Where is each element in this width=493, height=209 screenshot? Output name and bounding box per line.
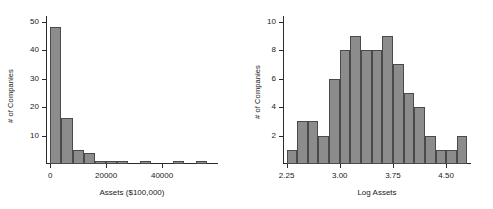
- y-tick: [42, 136, 46, 137]
- x-tick: [106, 164, 107, 168]
- histogram-bar: [173, 161, 184, 164]
- y-axis-label: # of Companies: [253, 42, 262, 142]
- histogram-bar: [329, 79, 340, 164]
- x-tick: [162, 164, 163, 168]
- histogram-bar: [117, 161, 128, 164]
- histogram-bar: [350, 36, 361, 164]
- x-tick: [393, 164, 394, 168]
- y-tick-label: 8: [250, 46, 276, 54]
- histogram-bar: [446, 150, 457, 164]
- x-tick-label: 20000: [82, 172, 130, 180]
- x-tick-label: 3.00: [316, 172, 364, 180]
- assets-histogram-panel: # of Companies 102030405002000040000 Ass…: [0, 0, 246, 209]
- y-tick: [279, 107, 283, 108]
- y-tick-label: 10: [250, 18, 276, 26]
- x-tick-label: 40000: [138, 172, 186, 180]
- histogram-bar: [50, 27, 61, 164]
- y-tick-label: 10: [13, 132, 39, 140]
- histogram-bar: [393, 64, 404, 164]
- histogram-bar: [414, 107, 425, 164]
- histogram-bar: [140, 161, 151, 164]
- y-tick-label: 30: [13, 75, 39, 83]
- y-tick-label: 6: [250, 75, 276, 83]
- histogram-bar: [340, 50, 351, 164]
- y-tick-label: 4: [250, 103, 276, 111]
- y-axis-label: # of Companies: [6, 48, 15, 144]
- histogram-bar: [95, 161, 106, 164]
- histogram-bar: [457, 136, 468, 164]
- y-tick: [42, 79, 46, 80]
- y-tick: [279, 79, 283, 80]
- plot-area: 2468102.253.003.754.50: [283, 16, 471, 164]
- y-tick: [279, 22, 283, 23]
- histogram-bar: [382, 36, 393, 164]
- bars-group: [283, 16, 471, 164]
- x-axis-label: Log Assets: [283, 188, 471, 197]
- histogram-bar: [404, 93, 415, 164]
- y-tick-label: 50: [13, 18, 39, 26]
- x-tick: [340, 164, 341, 168]
- y-tick: [279, 136, 283, 137]
- histogram-bar: [84, 153, 95, 164]
- y-tick-label: 40: [13, 46, 39, 54]
- histogram-bar: [61, 118, 72, 164]
- histogram-bar: [73, 150, 84, 164]
- y-tick: [42, 107, 46, 108]
- y-tick: [279, 50, 283, 51]
- histogram-bar: [425, 136, 436, 164]
- y-tick-label: 2: [250, 132, 276, 140]
- histogram-bar: [372, 50, 383, 164]
- two-histogram-figure: # of Companies 102030405002000040000 Ass…: [0, 0, 493, 209]
- y-tick-label: 20: [13, 103, 39, 111]
- histogram-bar: [196, 161, 207, 164]
- x-tick-label: 4.50: [422, 172, 470, 180]
- histogram-bar: [287, 150, 298, 164]
- histogram-bar: [436, 150, 447, 164]
- log-assets-histogram-panel: # of Companies 2468102.253.003.754.50 Lo…: [247, 0, 493, 209]
- x-tick: [50, 164, 51, 168]
- x-tick-label: 0: [26, 172, 74, 180]
- histogram-bar: [297, 121, 308, 164]
- histogram-bar: [106, 161, 117, 164]
- histogram-bar: [308, 121, 319, 164]
- plot-area: 102030405002000040000: [46, 16, 218, 164]
- histogram-bar: [361, 50, 372, 164]
- y-tick: [42, 50, 46, 51]
- x-tick: [287, 164, 288, 168]
- y-tick: [42, 22, 46, 23]
- x-tick: [446, 164, 447, 168]
- x-tick-label: 2.25: [263, 172, 311, 180]
- histogram-bar: [318, 136, 329, 164]
- x-axis-label: Assets ($100,000): [46, 188, 218, 197]
- x-tick-label: 3.75: [369, 172, 417, 180]
- bars-group: [46, 16, 218, 164]
